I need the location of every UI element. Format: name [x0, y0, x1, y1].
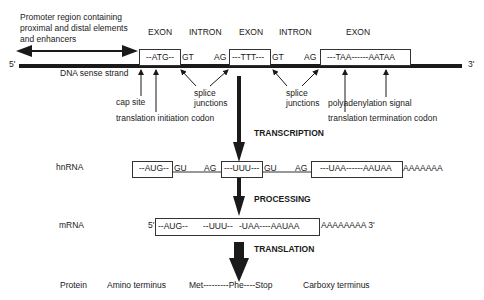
- dna-exon-3-box: ---TAA------AATAA: [320, 49, 411, 66]
- dna-exon-1-seq: --ATG--: [146, 52, 174, 62]
- step-transcription: TRANSCRIPTION: [254, 128, 324, 138]
- splice-arrow-1a: [181, 70, 196, 86]
- promoter-label-line1: Promoter region containing: [20, 12, 122, 22]
- mrna-seg-3: -UAA----AAUAA: [239, 221, 299, 231]
- splice-junctions-2-line2: junctions: [286, 98, 320, 108]
- cap-site-label: cap site: [116, 97, 145, 107]
- splice-arrow-2a: [273, 70, 287, 86]
- transcription-arrow-head: [233, 142, 245, 162]
- processing-arrow-head: [233, 196, 245, 216]
- promoter-label-line2: proximal and distal elements: [20, 23, 128, 33]
- mrna-five-prime: 5': [148, 220, 154, 230]
- region-exon-1: EXON: [148, 27, 172, 37]
- mrna-box: --AUG-- --UUU-- -UAA----AAUAA: [155, 218, 320, 236]
- carboxy-terminus: Carboxy terminus: [303, 280, 370, 290]
- dna-exon-2-seq: ---TTT---: [232, 52, 264, 62]
- dna-ag-2: AG: [304, 52, 316, 62]
- hnrna-exon-3-box: ---UAA------AAUAA: [311, 161, 403, 178]
- hnrna-gu-2: GU: [264, 163, 277, 173]
- translation-termination-label: translation termination codon: [328, 113, 437, 123]
- region-exon-2: EXON: [239, 27, 263, 37]
- hnrna-ag-1: AG: [204, 163, 216, 173]
- hnrna-ag-2: AG: [295, 163, 307, 173]
- step-translation: TRANSLATION: [254, 244, 314, 254]
- dna-exon-2-box: ---TTT---: [229, 49, 271, 66]
- protein-label: Protein: [60, 280, 87, 290]
- dna-three-prime: 3': [468, 59, 474, 69]
- region-intron-1: INTRON: [189, 27, 222, 37]
- dna-gt-2: GT: [272, 52, 284, 62]
- dna-ag-1: AG: [214, 52, 226, 62]
- dna-gt-1: GT: [182, 52, 194, 62]
- hnrna-exon-2-box: ---UUU---: [221, 161, 263, 178]
- mrna-seg-2: --UUU--: [203, 221, 233, 231]
- region-intron-2: INTRON: [279, 27, 312, 37]
- dna-exon-3-seq: ---TAA------AATAA: [327, 52, 395, 62]
- splice-arrow-2b: [302, 70, 318, 86]
- protein-sequence: Met---------Phe----Stop: [189, 280, 273, 290]
- translation-arrow-head: [229, 258, 249, 282]
- dna-exon-1-box: --ATG--: [139, 49, 181, 66]
- hnrna-polya-tail: AAAAAAA: [403, 163, 443, 173]
- splice-junctions-1-line1: splice: [194, 88, 216, 98]
- mrna-polya-tail: AAAAAAAA 3': [321, 220, 375, 230]
- promoter-label-line3: and enhancers: [20, 34, 76, 44]
- hnrna-exon-1-seq: --AUG--: [139, 163, 169, 173]
- mrna-label: mRNA: [59, 220, 84, 230]
- dna-strand-label: DNA sense strand: [60, 68, 129, 78]
- mrna-seg-1: --AUG--: [158, 221, 188, 231]
- dna-five-prime: 5': [9, 59, 15, 69]
- hnrna-exon-2-seq: ---UUU---: [224, 163, 259, 173]
- hnrna-label: hnRNA: [56, 162, 83, 172]
- amino-terminus: Amino terminus: [107, 280, 166, 290]
- hnrna-gu-1: GU: [174, 163, 187, 173]
- splice-junctions-1-line2: junctions: [194, 98, 228, 108]
- step-processing: PROCESSING: [254, 194, 311, 204]
- diagram-graphics: [0, 0, 484, 300]
- hnrna-exon-1-box: --AUG--: [132, 161, 173, 178]
- translation-initiation-label: translation initiation codon: [116, 113, 214, 123]
- region-exon-3: EXON: [346, 27, 370, 37]
- polyadenylation-label: polyadenylation signal: [328, 98, 412, 108]
- splice-junctions-2-line1: splice: [286, 88, 308, 98]
- hnrna-exon-3-seq: ---UAA------AAUAA: [320, 163, 392, 173]
- splice-arrow-1b: [210, 70, 228, 86]
